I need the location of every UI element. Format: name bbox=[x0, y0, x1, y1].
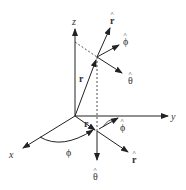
theta-hat-vector bbox=[97, 57, 122, 73]
spherical-coordinates-diagram: z y x r ^ ϕ ^ θ ^ r r ϕ ϕ ^ r ^ θ ^ bbox=[0, 0, 186, 190]
projected-phi-hat-vector bbox=[99, 118, 118, 129]
y-axis-label: y bbox=[170, 111, 176, 122]
dashed-z-projection bbox=[75, 42, 97, 57]
x-axis bbox=[23, 116, 75, 148]
phi-angle-label: ϕ bbox=[66, 147, 71, 158]
phi-hat-vector bbox=[97, 45, 119, 57]
x-axis-label: x bbox=[8, 149, 14, 160]
phi-angle-arc bbox=[40, 130, 93, 142]
projected-r-hat-vector bbox=[97, 131, 128, 152]
position-vector-label: r bbox=[79, 73, 84, 84]
projection-vector-label: r bbox=[84, 118, 89, 129]
z-axis-label: z bbox=[71, 16, 76, 27]
position-vector-r bbox=[75, 60, 96, 116]
r-hat-vector bbox=[97, 28, 110, 57]
